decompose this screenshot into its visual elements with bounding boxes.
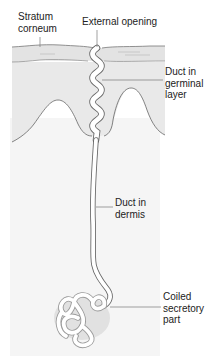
label-external-opening: External opening xyxy=(82,16,157,28)
label-coiled-secretory-part: Coiled secretory part xyxy=(163,291,204,326)
label-stratum-corneum: Stratum corneum xyxy=(18,11,57,34)
label-duct-germinal-layer: Duct in germinal layer xyxy=(165,66,203,101)
label-duct-dermis: Duct in dermis xyxy=(115,197,146,220)
